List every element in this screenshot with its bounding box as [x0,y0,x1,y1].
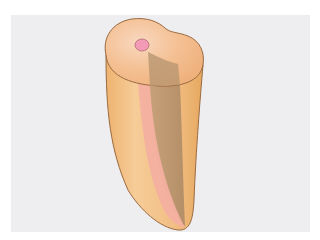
tooth-root-illustration [0,0,320,240]
pulp-opening [135,39,149,51]
